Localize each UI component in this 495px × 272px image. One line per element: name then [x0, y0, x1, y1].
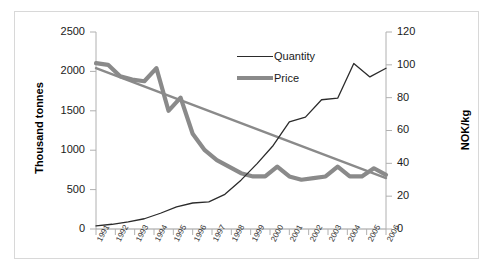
legend-label-price: Price	[273, 72, 299, 84]
chart-legend: Quantity Price	[237, 45, 357, 89]
y-right-tick-40: 40	[397, 156, 437, 168]
y-right-tick-120: 120	[397, 25, 437, 37]
y-left-tick-0: 0	[41, 222, 85, 234]
y-left-tick-2000: 2000	[41, 64, 85, 76]
y-right-tick-100: 100	[397, 58, 437, 70]
y-right-tick-0: 0	[397, 222, 437, 234]
y-right-tick-60: 60	[397, 123, 437, 135]
y-left-tick-500: 500	[41, 183, 85, 195]
chart-frame: 2500 2000 1500 1000 500 0 120 100 80 60 …	[14, 11, 479, 259]
legend-label-quantity: Quantity	[273, 50, 315, 62]
legend-line-icon-quantity	[237, 56, 273, 57]
y-left-tick-1500: 1500	[41, 104, 85, 116]
y-right-ticks	[386, 32, 392, 229]
y-axis-right-title: NOK/kg	[459, 70, 471, 190]
legend-item-quantity: Quantity	[237, 45, 357, 67]
y-left-tick-2500: 2500	[41, 25, 85, 37]
legend-line-icon-price	[237, 76, 273, 80]
y-right-tick-80: 80	[397, 91, 437, 103]
y-right-tick-20: 20	[397, 189, 437, 201]
y-axis-left-title: Thousand tonnes	[33, 58, 45, 198]
y-left-tick-1000: 1000	[41, 143, 85, 155]
legend-item-price: Price	[237, 67, 357, 89]
chart-figure: 2500 2000 1500 1000 500 0 120 100 80 60 …	[0, 0, 495, 272]
